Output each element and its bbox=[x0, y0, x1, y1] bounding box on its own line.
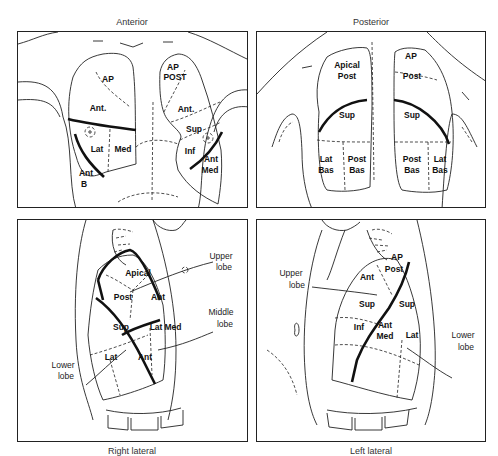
segment-label: Med bbox=[165, 322, 182, 332]
segment-label: AP bbox=[405, 51, 417, 61]
segment-label: POST bbox=[163, 72, 187, 82]
segment-label: Lat bbox=[105, 352, 118, 362]
panel-left-lateral: AP Post Ant Sup Sup Inf Ant Med Lat Uppe… bbox=[256, 219, 486, 442]
segment-label: Post bbox=[403, 71, 422, 81]
segment-label: Post bbox=[403, 154, 422, 164]
segment-label: Ant bbox=[360, 272, 374, 282]
panel-posterior: Apical Post Sup Lat Bas Post Bas AP Post… bbox=[256, 31, 486, 208]
segment-label: Post bbox=[385, 264, 404, 274]
segment-label: Ant. bbox=[90, 103, 107, 113]
segment-label: Lat bbox=[150, 322, 163, 332]
callout-label: lobe bbox=[216, 262, 232, 272]
caption-right-lateral: Right lateral bbox=[17, 446, 247, 456]
posterior-lung-drawing: Apical Post Sup Lat Bas Post Bas AP Post… bbox=[257, 32, 486, 208]
segment-label: AP bbox=[391, 252, 403, 262]
segment-label: Apical bbox=[125, 268, 151, 278]
callout-label: Lower bbox=[451, 330, 474, 340]
segment-label: Ant bbox=[138, 352, 152, 362]
callout-label: Upper bbox=[209, 251, 232, 261]
segment-label: Ant bbox=[79, 168, 93, 178]
segment-label: Inf bbox=[185, 146, 196, 156]
segment-label: Lat bbox=[91, 144, 104, 154]
segment-label: Lat bbox=[320, 154, 333, 164]
segment-label: Post bbox=[338, 71, 357, 81]
caption-left-lateral: Left lateral bbox=[256, 446, 486, 456]
segment-label: AP bbox=[102, 74, 114, 84]
segment-label: Post bbox=[114, 292, 133, 302]
callout-label: lobe bbox=[458, 342, 474, 352]
callout-label: Middle bbox=[208, 307, 233, 317]
panel-anterior: AP Ant. Lat Med Ant B AP POST Ant. Sup I… bbox=[17, 31, 248, 208]
segment-label: Bas bbox=[432, 165, 448, 175]
segment-label: Apical bbox=[334, 60, 360, 70]
segment-label: Med bbox=[115, 144, 132, 154]
callout-label: Lower bbox=[51, 360, 74, 370]
left-lateral-lung-drawing: AP Post Ant Sup Sup Inf Ant Med Lat Uppe… bbox=[257, 220, 486, 442]
right-lateral-lung-drawing: Apical Post Ant Sup Lat Med Lat Ant Uppe… bbox=[18, 220, 248, 442]
callout-label: lobe bbox=[289, 280, 305, 290]
segment-label: Ant bbox=[151, 292, 165, 302]
panel-right-lateral: Apical Post Ant Sup Lat Med Lat Ant Uppe… bbox=[17, 219, 248, 442]
segment-label: Sup bbox=[404, 110, 420, 120]
segment-label: Ant bbox=[378, 320, 392, 330]
segment-label: Ant. bbox=[178, 104, 195, 114]
segment-label: Med bbox=[377, 331, 394, 341]
segment-label: Lat bbox=[434, 154, 447, 164]
segment-label: Ant bbox=[204, 154, 218, 164]
segment-label: Post bbox=[348, 154, 367, 164]
segment-label: Sup bbox=[186, 124, 202, 134]
segment-label: Med bbox=[202, 165, 219, 175]
segment-label: AP bbox=[167, 62, 179, 72]
caption-posterior: Posterior bbox=[256, 17, 486, 27]
segment-label: Bas bbox=[349, 165, 365, 175]
segment-label: Bas bbox=[404, 165, 420, 175]
segment-label: B bbox=[81, 179, 87, 189]
callout-label: lobe bbox=[217, 319, 233, 329]
anterior-lung-drawing: AP Ant. Lat Med Ant B AP POST Ant. Sup I… bbox=[18, 32, 248, 208]
segment-label: Inf bbox=[354, 322, 365, 332]
segment-label: Sup bbox=[339, 110, 355, 120]
segment-label: Lat bbox=[406, 330, 419, 340]
segment-label: Sup bbox=[113, 322, 129, 332]
segment-label: Sup bbox=[359, 299, 375, 309]
segment-label: Sup bbox=[399, 299, 415, 309]
callout-label: Upper bbox=[279, 268, 302, 278]
caption-anterior: Anterior bbox=[17, 17, 247, 27]
segment-label: Bas bbox=[318, 165, 334, 175]
callout-label: lobe bbox=[58, 371, 74, 381]
